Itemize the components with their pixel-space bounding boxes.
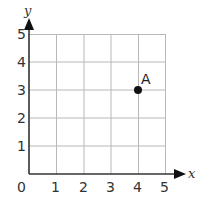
point-a: A bbox=[134, 71, 151, 94]
point-a-marker bbox=[134, 86, 142, 94]
x-axis-label: x bbox=[188, 166, 196, 181]
point-a-label: A bbox=[141, 71, 151, 87]
grid bbox=[29, 34, 166, 174]
y-tick-4: 4 bbox=[17, 54, 26, 70]
x-tick-labels: 0 1 2 3 4 5 bbox=[17, 179, 169, 195]
y-tick-5: 5 bbox=[17, 26, 26, 42]
x-tick-5: 5 bbox=[160, 179, 169, 195]
y-tick-1: 1 bbox=[17, 138, 26, 154]
x-tick-3: 3 bbox=[106, 179, 115, 195]
y-tick-3: 3 bbox=[17, 82, 26, 98]
x-tick-4: 4 bbox=[133, 179, 142, 195]
y-tick-labels: 1 2 3 4 5 bbox=[17, 26, 26, 154]
coordinate-plane: x y 0 1 2 3 4 5 1 2 3 4 5 A bbox=[0, 0, 204, 201]
y-axis-label: y bbox=[23, 3, 32, 18]
x-tick-0: 0 bbox=[17, 179, 26, 195]
y-tick-2: 2 bbox=[17, 110, 26, 126]
x-tick-1: 1 bbox=[51, 179, 60, 195]
x-axis-arrow-icon bbox=[174, 169, 186, 179]
x-tick-2: 2 bbox=[79, 179, 88, 195]
